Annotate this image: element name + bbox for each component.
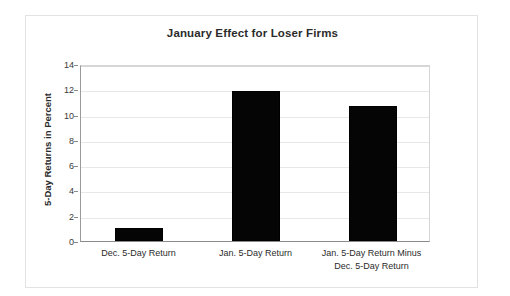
figure-frame: January Effect for Loser Firms 5-Day Ret… (25, 15, 478, 288)
y-axis-tick-mark (74, 65, 78, 66)
x-axis-category-label: Jan. 5-Day Return Minus Dec. 5-Day Retur… (301, 247, 442, 272)
y-axis-tick-label: 2 (44, 212, 74, 222)
bar[interactable] (349, 106, 397, 241)
y-axis-tick-mark (74, 90, 78, 91)
y-axis-tick-mark (74, 242, 78, 243)
y-axis-tick-mark (74, 116, 78, 117)
y-axis-tick-label: 4 (44, 186, 74, 196)
x-axis-category-labels: Dec. 5-Day ReturnJan. 5-Day ReturnJan. 5… (80, 247, 430, 287)
bar[interactable] (232, 91, 280, 241)
gridline (81, 66, 429, 67)
y-axis-tick-labels: 14121086420 (42, 65, 74, 242)
y-axis-tick-label: 6 (44, 161, 74, 171)
y-axis-tick-mark (74, 217, 78, 218)
plot-area (80, 65, 430, 242)
y-axis-tick-label: 10 (44, 111, 74, 121)
y-axis-tick-mark (74, 166, 78, 167)
y-axis-tick-label: 12 (44, 85, 74, 95)
y-axis-tick-label: 14 (44, 60, 74, 70)
y-axis-tick-mark (74, 191, 78, 192)
y-axis-tick-label: 8 (44, 136, 74, 146)
bar[interactable] (115, 228, 163, 241)
chart-title: January Effect for Loser Firms (26, 27, 479, 39)
y-axis-tick-label: 0 (44, 237, 74, 247)
y-axis-tick-mark (74, 141, 78, 142)
